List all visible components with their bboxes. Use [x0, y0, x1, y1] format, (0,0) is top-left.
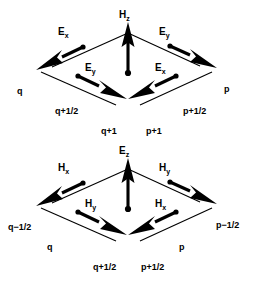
- coord-bottom-right-top: p+1: [146, 126, 162, 136]
- coord-right-bottom: p−1/2: [216, 220, 239, 230]
- coord-bottom-right-bottom: p+1/2: [141, 262, 164, 272]
- coord-lower-left-top: q+1/2: [55, 106, 78, 116]
- label-lower-left-field-top: Ey: [85, 62, 96, 76]
- coord-lower-right-top: p+1/2: [183, 106, 206, 116]
- arrowhead-upper-right: [190, 185, 217, 204]
- arrowhead-upper-left: [36, 50, 63, 70]
- center-arrow-bottom: [122, 158, 135, 212]
- arrow-lower-left-bottom: [75, 209, 127, 235]
- coord-right-top: p: [224, 84, 230, 94]
- diagram-bottom: Ez Hx Hy Hy Hx q−1/2 p−1/2 q p q+1/2 p+1…: [0, 142, 255, 283]
- arrow-lower-right-bottom: [128, 209, 179, 235]
- diagram-top-canvas: Hz Ex Ey Ey Ex q p q+1/2 p+1/2 q+1 p+1: [0, 0, 255, 142]
- arrow-lower-left-top: [75, 73, 127, 99]
- label-upper-left-field-bottom: Hx: [58, 162, 69, 175]
- label-center-field-bottom: Ez: [119, 145, 130, 158]
- arrow-upper-right-bottom: [167, 179, 217, 204]
- arrowhead-lower-left: [99, 216, 127, 235]
- label-upper-left-field-top: Ex: [58, 26, 69, 39]
- coord-bottom-left-top: q+1: [101, 126, 117, 136]
- arrowhead-lower-left: [99, 80, 127, 99]
- diagram-bottom-canvas: Ez Hx Hy Hy Hx q−1/2 p−1/2 q p q+1/2 p+1…: [0, 142, 255, 283]
- arrow-upper-right-top: [167, 43, 217, 68]
- coord-lower-left-bottom: q: [47, 242, 53, 252]
- arrowhead-upper-left: [36, 186, 63, 206]
- label-center-field-top: Hz: [119, 9, 130, 22]
- arrow-upper-left-top: [36, 44, 86, 70]
- label-lower-left-field-bottom: Hy: [85, 198, 96, 212]
- arrowhead-upper-right: [190, 49, 217, 68]
- center-node-dot: [125, 70, 131, 76]
- coord-left-top: q: [17, 86, 23, 96]
- label-lower-right-field-bottom: Hx: [155, 198, 166, 211]
- label-upper-right-field-top: Ey: [159, 26, 170, 40]
- center-node-dot: [125, 206, 131, 212]
- arrowhead-lower-right: [128, 216, 155, 235]
- arrow-upper-left-bottom: [36, 180, 86, 206]
- center-arrow-top: [122, 22, 135, 76]
- label-upper-right-field-bottom: Hy: [159, 162, 170, 176]
- coord-left-bottom: q−1/2: [8, 222, 31, 232]
- diagram-top: Hz Ex Ey Ey Ex q p q+1/2 p+1/2 q+1 p+1: [0, 0, 255, 142]
- arrowhead-lower-right: [128, 80, 155, 99]
- yee-cell-figure: Hz Ex Ey Ey Ex q p q+1/2 p+1/2 q+1 p+1: [0, 0, 255, 283]
- edge-upper-right: [128, 169, 200, 202]
- coord-lower-right-bottom: p: [179, 242, 185, 252]
- edge-upper-right: [128, 33, 200, 66]
- label-lower-right-field-top: Ex: [155, 62, 166, 75]
- arrow-lower-right-top: [128, 73, 179, 99]
- coord-bottom-left-bottom: q+1/2: [93, 262, 116, 272]
